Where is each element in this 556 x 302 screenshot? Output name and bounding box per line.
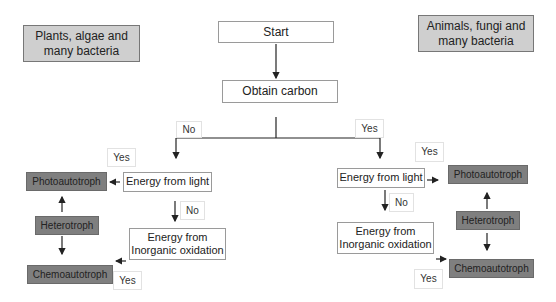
left-heterotroph-node: Heterotroph <box>35 216 99 235</box>
right-chemoautotroph-node: Chemoautotroph <box>449 259 534 278</box>
right-heterotroph-node: Heterotroph <box>456 211 520 230</box>
left-chemoautotroph-node: Chemoautotroph <box>27 265 113 284</box>
right-no-light-label: No <box>389 193 414 212</box>
branch-yes-label: Yes <box>355 119 384 138</box>
group-label-left: Plants, algae and many bacteria <box>23 25 140 62</box>
left-energy-inorganic-node: Energy from Inorganic oxidation <box>129 228 226 260</box>
group-label-right: Animals, fungi and many bacteria <box>418 15 534 52</box>
left-yes-inorganic-label: Yes <box>113 271 142 290</box>
right-energy-light-node: Energy from light <box>337 168 425 188</box>
right-energy-inorganic-node: Energy from Inorganic oxidation <box>337 222 434 254</box>
right-yes-light-label: Yes <box>415 142 444 162</box>
right-yes-inorganic-label: Yes <box>414 269 443 289</box>
branch-no-label: No <box>176 121 202 138</box>
left-no-light-label: No <box>180 201 205 220</box>
obtain-carbon-node: Obtain carbon <box>222 80 338 103</box>
left-photoautotroph-node: Photoautotroph <box>26 172 107 191</box>
left-yes-light-label: Yes <box>107 148 136 167</box>
right-photoautotroph-node: Photoautotroph <box>448 165 528 184</box>
left-energy-light-node: Energy from light <box>123 172 212 192</box>
start-node: Start <box>218 21 334 43</box>
